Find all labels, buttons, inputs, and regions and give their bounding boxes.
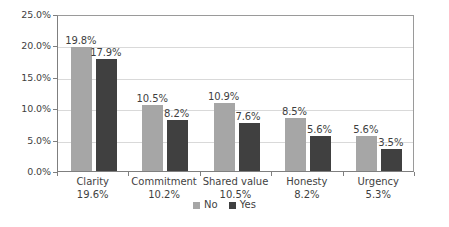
y-axis-tick-mark xyxy=(53,15,57,16)
x-axis-category-3: Honesty8.2% xyxy=(271,176,342,201)
x-axis-category-0: Clarity19.6% xyxy=(57,176,128,201)
x-axis-category-name: Urgency xyxy=(343,176,414,189)
bar-yes-3 xyxy=(310,136,331,171)
chart-legend: NoYes xyxy=(0,200,449,210)
y-axis-tick-mark xyxy=(53,109,57,110)
legend-label: Yes xyxy=(240,200,256,210)
y-axis-tick-label: 0.0% xyxy=(8,166,51,177)
bar-value-label: 17.9% xyxy=(90,47,120,58)
bar-no-4 xyxy=(356,136,377,171)
bar-value-label: 19.8% xyxy=(65,35,95,46)
y-axis-tick-label: 20.0% xyxy=(8,40,51,51)
legend-item-no: No xyxy=(193,200,218,210)
bar-yes-4 xyxy=(381,149,402,171)
x-axis-category-name: Shared value xyxy=(200,176,271,189)
bar-no-2 xyxy=(214,103,235,171)
legend-swatch-icon xyxy=(193,202,200,209)
x-axis-category-name: Commitment xyxy=(128,176,199,189)
bar-value-label: 10.5% xyxy=(137,93,167,104)
legend-label: No xyxy=(204,200,218,210)
bar-value-label: 5.6% xyxy=(351,124,381,135)
bar-yes-0 xyxy=(96,59,117,171)
bar-value-label: 3.5% xyxy=(376,137,406,148)
legend-swatch-icon xyxy=(229,202,236,209)
y-axis-tick-label: 15.0% xyxy=(8,72,51,83)
y-axis-tick-label: 5.0% xyxy=(8,135,51,146)
bar-chart: 25.0%20.0%15.0%10.0%5.0%0.0% Clarity19.6… xyxy=(0,0,449,227)
legend-item-yes: Yes xyxy=(229,200,256,210)
bar-no-1 xyxy=(142,105,163,171)
x-axis-tick-mark xyxy=(414,172,415,176)
x-axis-category-4: Urgency5.3% xyxy=(343,176,414,201)
x-axis-category-name: Honesty xyxy=(271,176,342,189)
x-axis-category-2: Shared value10.5% xyxy=(200,176,271,201)
bar-value-label: 8.5% xyxy=(279,106,309,117)
y-axis-tick-label: 10.0% xyxy=(8,103,51,114)
x-axis-category-1: Commitment10.2% xyxy=(128,176,199,201)
y-axis-tick-mark xyxy=(53,46,57,47)
bar-value-label: 5.6% xyxy=(304,124,334,135)
y-axis-tick-label: 25.0% xyxy=(8,9,51,20)
bar-value-label: 7.6% xyxy=(233,111,263,122)
bar-yes-2 xyxy=(239,123,260,171)
bar-no-3 xyxy=(285,118,306,171)
y-axis-tick-mark xyxy=(53,78,57,79)
y-axis-tick-mark xyxy=(53,141,57,142)
bar-value-label: 10.9% xyxy=(208,91,238,102)
bar-no-0 xyxy=(71,47,92,171)
x-axis-category-name: Clarity xyxy=(57,176,128,189)
bar-value-label: 8.2% xyxy=(162,108,192,119)
bar-yes-1 xyxy=(167,120,188,171)
